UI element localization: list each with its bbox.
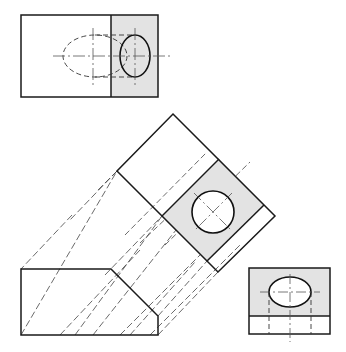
top-view bbox=[21, 15, 172, 97]
auxiliary-view bbox=[117, 114, 275, 272]
side-view bbox=[249, 268, 330, 342]
technical-drawing bbox=[0, 0, 346, 352]
